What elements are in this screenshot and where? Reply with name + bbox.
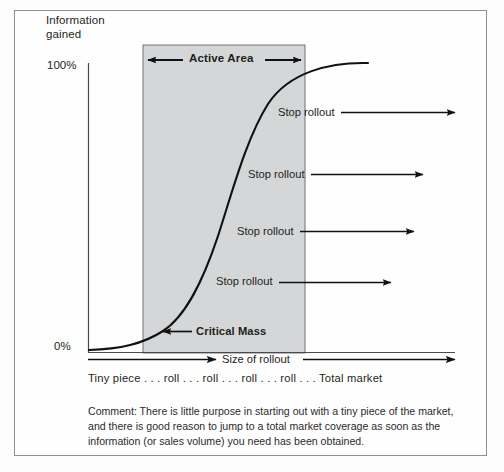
stop-rollout-label-2: Stop rollout [248,168,305,181]
stop-rollout-label-3: Stop rollout [237,225,294,238]
y-tick-label-100: 100% [47,59,76,73]
critical-mass-label: Critical Mass [196,325,266,338]
y-axis-title-line-2: gained [46,28,105,42]
active-area-label: Active Area [189,52,254,66]
comment-text: Comment: There is little purpose in star… [88,404,456,449]
y-tick-label-0: 0% [54,340,71,354]
x-axis-label: Size of rollout [222,353,290,366]
stop-rollout-label-4: Stop rollout [216,275,273,288]
x-axis-scale-labels: Tiny piece . . . roll . . . roll . . . r… [88,372,382,385]
y-axis-title: Information gained [46,14,105,41]
figure-container: Information gained 100% 0% Active Area S… [0,0,504,472]
active-area-region [143,45,305,353]
y-axis-title-line-1: Information [46,14,105,28]
stop-rollout-label-1: Stop rollout [278,106,335,119]
